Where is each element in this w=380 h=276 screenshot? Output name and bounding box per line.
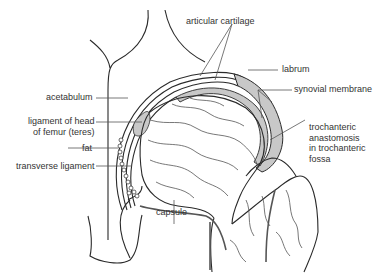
label-fat: fat — [82, 143, 92, 154]
pelvis-outline — [88, 10, 205, 263]
label-articular-cartilage: articular cartilage — [186, 16, 255, 27]
articular-cartilage-shape — [176, 88, 268, 166]
label-acetabulum: acetabulum — [46, 92, 93, 103]
label-trochanteric-line4: fossa — [309, 154, 366, 165]
label-capsule: capsule — [156, 207, 187, 218]
label-labrum: labrum — [282, 64, 310, 75]
label-trochanteric-line2: anastomosis — [309, 133, 366, 144]
label-ligament-of-head-line1: ligament of head — [28, 116, 95, 127]
label-trochanteric-line3: in trochanteric — [309, 143, 366, 154]
label-trochanteric-anastomosis: trochanteric anastomosis in trochanteric… — [309, 122, 366, 164]
capsule-outline — [140, 190, 275, 270]
label-transverse-ligament: transverse ligament — [16, 161, 95, 172]
label-ligament-of-head: ligament of head of femur (teres) — [28, 116, 95, 137]
label-ligament-of-head-line2: of femur (teres) — [28, 127, 95, 138]
label-synovial-membrane: synovial membrane — [294, 84, 372, 95]
label-trochanteric-line1: trochanteric — [309, 122, 366, 133]
